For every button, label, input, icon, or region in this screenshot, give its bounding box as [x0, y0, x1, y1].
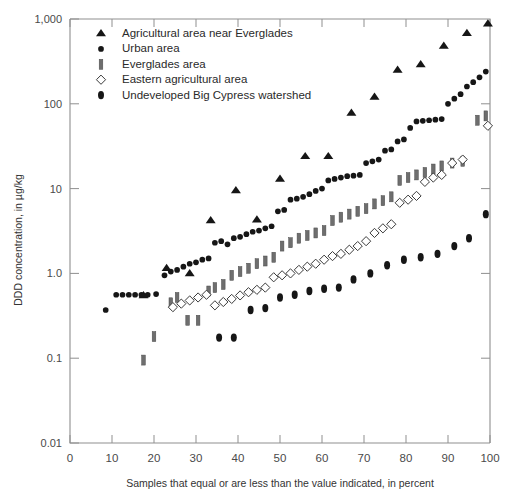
data-point — [351, 173, 357, 179]
data-point — [381, 196, 385, 206]
data-point — [451, 96, 457, 102]
data-point — [440, 161, 444, 171]
x-tick-label: 0 — [67, 452, 73, 464]
data-point — [466, 234, 472, 242]
data-point — [439, 42, 449, 49]
y-tick-label: 100 — [44, 98, 62, 110]
data-point — [222, 279, 226, 289]
x-tick-label: 60 — [316, 452, 329, 464]
data-point — [407, 125, 413, 131]
data-point — [464, 84, 470, 90]
data-point — [264, 256, 268, 266]
data-point — [252, 215, 262, 222]
data-point — [448, 158, 457, 167]
data-point — [231, 235, 237, 241]
legend-marker-filled-oval — [98, 91, 104, 99]
data-point — [418, 253, 424, 261]
data-point — [306, 230, 310, 240]
data-point — [162, 272, 168, 278]
data-point — [338, 175, 344, 181]
x-axis-tick-labels: 0102030405060708090100 — [67, 452, 500, 464]
data-point — [393, 66, 403, 73]
legend-item: Everglades area — [99, 58, 206, 70]
chart-legend: Agricultural area near EvergladesUrban a… — [96, 27, 311, 101]
x-tick-label: 20 — [148, 452, 161, 464]
data-point — [426, 117, 432, 123]
y-tick-label: 10 — [50, 183, 62, 195]
data-point — [292, 291, 298, 299]
data-point — [437, 170, 446, 179]
data-point — [212, 240, 218, 246]
data-point — [103, 307, 109, 313]
legend-item: Undeveloped Big Cypress watershed — [98, 89, 311, 101]
data-point — [210, 301, 219, 310]
data-point — [429, 173, 438, 182]
legend-label: Undeveloped Big Cypress watershed — [122, 89, 311, 101]
data-point — [244, 231, 250, 237]
data-point — [275, 174, 285, 181]
data-point — [458, 91, 464, 97]
data-point — [256, 228, 262, 234]
data-point — [132, 292, 138, 298]
series-filled-circle — [103, 69, 489, 313]
x-tick-label: 80 — [400, 452, 413, 464]
data-point — [194, 293, 203, 302]
data-point — [458, 155, 467, 164]
data-point — [398, 175, 402, 185]
data-point — [483, 121, 492, 130]
data-point — [336, 249, 345, 258]
data-point — [345, 245, 354, 254]
data-point — [332, 176, 338, 182]
data-point — [348, 209, 352, 219]
y-tick-label: 0.01 — [41, 437, 62, 449]
data-point — [376, 157, 382, 163]
data-point — [252, 285, 261, 294]
data-point — [415, 170, 419, 180]
x-tick-label: 90 — [442, 452, 455, 464]
x-axis-title: Samples that equal or are less than the … — [126, 477, 434, 489]
data-point — [213, 283, 217, 293]
data-point — [248, 306, 254, 314]
data-point — [280, 241, 284, 251]
data-point — [470, 79, 476, 85]
data-point — [231, 333, 237, 341]
data-point — [175, 292, 179, 302]
x-axis-ticks — [70, 435, 490, 443]
data-point — [126, 292, 132, 298]
right-axis-ticks — [481, 104, 490, 358]
data-point — [323, 152, 333, 159]
legend-label: Eastern agricultural area — [122, 73, 248, 85]
data-point — [320, 255, 329, 264]
data-point — [420, 118, 426, 124]
data-point — [346, 108, 356, 115]
data-point — [439, 116, 445, 122]
data-point — [206, 256, 212, 262]
data-point — [219, 297, 228, 306]
x-tick-label: 40 — [232, 452, 245, 464]
data-point — [250, 229, 256, 235]
data-point — [206, 216, 216, 223]
data-point — [414, 119, 420, 125]
series-bar — [142, 111, 488, 365]
data-point — [339, 212, 343, 222]
data-point — [483, 210, 489, 218]
data-point — [331, 216, 335, 226]
y-tick-label: 1,000 — [34, 13, 62, 25]
y-axis-title: DDD concentration, in µg/kg — [12, 174, 24, 306]
data-point — [193, 259, 199, 265]
data-point — [294, 196, 300, 202]
data-point — [231, 186, 241, 193]
legend-marker-open-diamond — [96, 75, 105, 84]
data-point — [218, 238, 224, 244]
legend-item: Agricultural area near Everglades — [96, 27, 293, 39]
data-point — [237, 234, 243, 240]
y-tick-label: 0.1 — [47, 352, 62, 364]
data-point — [433, 117, 439, 123]
data-point — [423, 167, 427, 177]
data-point — [275, 208, 281, 214]
data-point — [401, 137, 407, 143]
data-point — [484, 111, 488, 121]
data-point — [300, 152, 310, 159]
data-point — [435, 250, 441, 258]
data-point — [328, 251, 337, 260]
